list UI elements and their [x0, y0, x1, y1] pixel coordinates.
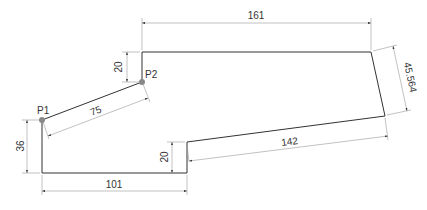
- point-p1-label: P1: [37, 105, 50, 116]
- svg-text:142: 142: [281, 135, 299, 148]
- svg-text:161: 161: [248, 10, 265, 21]
- dimension-slope-length: 75: [43, 84, 150, 139]
- dimension-top-width: 161: [142, 10, 371, 50]
- svg-text:20: 20: [159, 151, 170, 163]
- svg-text:36: 36: [15, 140, 26, 152]
- dimension-right-slant: 45.564: [373, 45, 419, 115]
- cad-drawing: P1 P2 161 20 45.564 75 36 20: [0, 0, 427, 210]
- point-p2-label: P2: [145, 69, 158, 80]
- svg-text:101: 101: [106, 179, 123, 190]
- dimension-bottom-width: 101: [42, 175, 187, 195]
- svg-text:20: 20: [113, 61, 124, 73]
- svg-text:45.564: 45.564: [402, 61, 419, 94]
- dimension-step-height: 20: [159, 142, 185, 173]
- dimension-left-height: 36: [15, 120, 40, 173]
- dimension-top-offset: 20: [113, 52, 140, 82]
- dimension-bottom-slope: 142: [187, 118, 388, 162]
